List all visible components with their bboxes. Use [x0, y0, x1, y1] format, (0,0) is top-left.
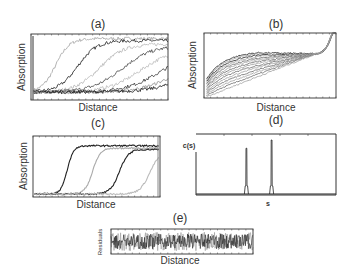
panel-d-peak-1	[244, 148, 248, 194]
panel-d-xlabel: s	[266, 200, 270, 207]
panel-b-series-14	[207, 33, 336, 97]
panel-e-ylabel: Residuals	[97, 229, 103, 255]
panel-e-residuals-dark	[111, 234, 253, 249]
panel-d-ylabel: c(s)	[183, 142, 195, 150]
panel-b-plot	[204, 32, 336, 98]
panel-c-series-scan3	[34, 149, 158, 195]
panel-a-xlabel: Distance	[79, 102, 118, 113]
panel-d-peak-2	[270, 140, 274, 194]
figure: (a) Absorption Distance (b) Absorption D…	[0, 0, 353, 276]
panel-c-series-scan2	[34, 148, 158, 195]
panel-b-frame	[204, 33, 336, 98]
panel-e-plot	[111, 229, 253, 254]
panel-b-xlabel: Distance	[257, 102, 296, 113]
panel-a-plot	[31, 34, 168, 100]
panel-a-series-scan6	[34, 66, 168, 93]
panel-d-title: (d)	[269, 113, 284, 127]
panel-c-xlabel: Distance	[77, 199, 116, 210]
panel-e: (e) Residuals Distance	[97, 211, 253, 266]
panel-b-ylabel: Absorption	[187, 41, 198, 89]
panel-b: (b) Absorption Distance	[187, 17, 336, 113]
panel-e-title: (e)	[173, 211, 188, 225]
panel-c-series-scan4	[34, 157, 158, 194]
panel-d: (d) c(s) s	[183, 113, 336, 207]
panel-c-ylabel: Absorption	[18, 142, 29, 190]
panel-d-frame	[196, 134, 336, 195]
panel-a-title: (a)	[91, 17, 106, 31]
panel-c-series-scan1	[34, 145, 158, 195]
panel-c-title: (c)	[91, 116, 105, 130]
panel-e-xlabel: Distance	[161, 255, 200, 266]
panel-a: (a) Absorption Distance	[16, 17, 168, 113]
panel-c: (c) Absorption Distance	[18, 116, 160, 210]
panel-b-series-6	[207, 33, 336, 85]
panel-d-plot	[196, 134, 336, 194]
panel-a-ylabel: Absorption	[16, 43, 27, 91]
panel-b-title: (b)	[269, 17, 284, 31]
panel-c-plot	[33, 136, 160, 197]
